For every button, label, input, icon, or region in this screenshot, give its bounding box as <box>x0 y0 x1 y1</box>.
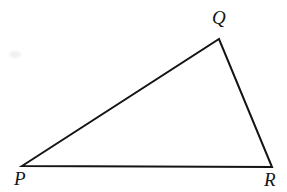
figure-canvas: P Q R <box>0 0 287 192</box>
scan-smudge-artifact <box>9 51 21 58</box>
vertex-label-q: Q <box>212 8 226 27</box>
triangle-outline-pqr <box>22 39 272 167</box>
vertex-label-r: R <box>264 170 276 189</box>
triangle-diagram <box>0 0 287 192</box>
vertex-label-p: P <box>14 169 26 188</box>
